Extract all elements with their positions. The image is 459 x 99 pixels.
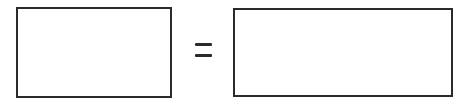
right-blank-box [233,8,453,97]
equals-sign-icon [195,42,212,59]
left-blank-box [16,7,172,98]
equals-bar-top [195,43,212,46]
equals-bar-bottom [195,54,212,57]
